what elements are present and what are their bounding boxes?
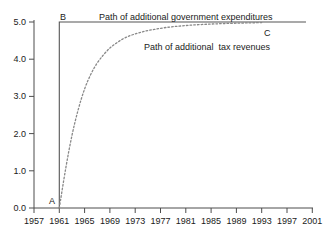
point-label-b: B	[60, 12, 66, 22]
series-label-expenditures: Path of additional government expenditur…	[99, 12, 273, 22]
y-tick-label-4: 4.0	[2, 54, 26, 64]
y-tick-label-1: 1.0	[2, 166, 26, 176]
y-tick-label-2: 2.0	[2, 129, 26, 139]
y-tick-label-0: 0.0	[2, 203, 26, 213]
x-tick-marks	[34, 208, 312, 213]
y-tick-label-3: 3.0	[2, 91, 26, 101]
point-label-a: A	[49, 196, 55, 206]
point-label-c: C	[264, 28, 271, 38]
series-label-revenues: Path of additional tax revenues	[144, 42, 270, 52]
chart-figure: 5.0 4.0 3.0 2.0 1.0 0.0 1957 1961 1965 1…	[0, 0, 329, 239]
y-tick-label-5: 5.0	[2, 17, 26, 27]
x-tick-label-2001: 2001	[294, 216, 329, 226]
y-tick-marks	[29, 22, 34, 208]
